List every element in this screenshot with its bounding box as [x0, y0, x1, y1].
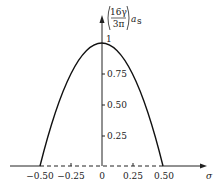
svg-text:a: a: [131, 14, 136, 24]
svg-text:s: s: [137, 16, 142, 26]
x-tick-label: 0.25: [123, 171, 143, 181]
x-tick-label: 0: [99, 171, 105, 181]
y-tick-label: 0.75: [107, 69, 127, 79]
y-tick-label: 0.50: [107, 100, 127, 110]
y-axis-arrow-icon: [100, 15, 105, 23]
x-axis-label: σ: [206, 171, 213, 181]
chart: 0.75 0.50 0.25 1 −0.50 −0.25 0 0.25 0.50…: [0, 0, 219, 194]
x-tick-label: −0.25: [57, 171, 85, 181]
x-tick-label: −0.50: [26, 171, 54, 181]
y-axis-label: 16γ 3π a s: [108, 6, 142, 30]
x-tick-label: 0.50: [154, 171, 174, 181]
svg-text:3π: 3π: [113, 19, 125, 29]
svg-text:16γ: 16γ: [110, 7, 127, 17]
y-tick-label: 1: [106, 34, 112, 44]
y-tick-label: 0.25: [107, 131, 127, 141]
x-axis-arrow-icon: [200, 164, 207, 169]
